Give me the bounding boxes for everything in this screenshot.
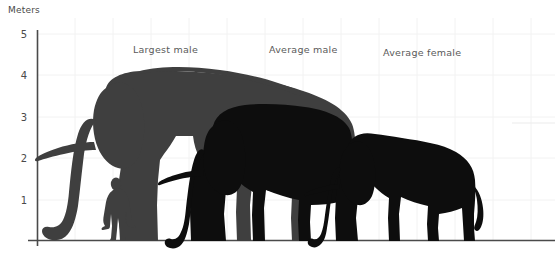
label-average-male: Average male — [269, 44, 338, 55]
y-tick-1: 1 — [11, 195, 27, 206]
y-tick-3: 3 — [11, 112, 27, 123]
y-axis-title: Meters — [8, 5, 40, 15]
y-tick-5: 5 — [11, 29, 27, 40]
label-largest-male: Largest male — [133, 44, 198, 55]
y-tick-2: 2 — [11, 153, 27, 164]
label-average-female: Average female — [383, 47, 461, 58]
elephant-size-comparison-chart: Meters 5 4 3 2 1 Largest male Average ma… — [0, 0, 555, 267]
y-tick-4: 4 — [11, 70, 27, 81]
silhouettes-layer — [0, 0, 555, 267]
